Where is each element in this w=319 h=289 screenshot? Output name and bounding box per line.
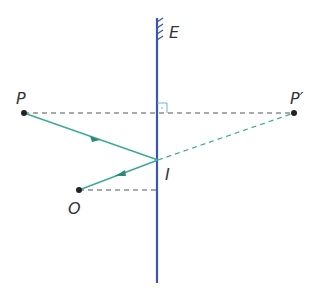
virtual-ray [158,113,294,160]
label-i: I [165,165,170,184]
label-mirror: E [169,23,180,42]
label-p: P [16,89,26,108]
arrow-reflected-icon [115,170,126,176]
label-o: O [68,199,81,218]
point-pprime [291,110,297,116]
label-pprime: P′ [290,89,304,108]
reflection-diagram: E P P′ I O [0,0,319,289]
point-o [76,187,82,193]
point-p [21,110,27,116]
